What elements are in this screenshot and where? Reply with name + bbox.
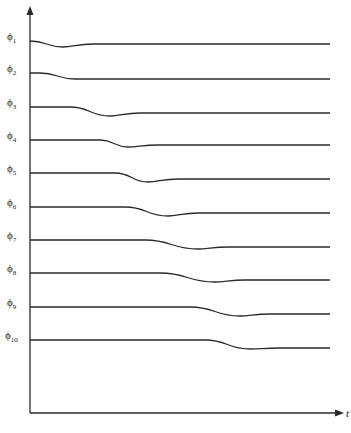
phi-subscript: 3 bbox=[13, 103, 17, 111]
curve-phi-3 bbox=[30, 107, 330, 116]
curve-phi-2 bbox=[30, 73, 330, 79]
curve-phi-10 bbox=[30, 340, 330, 349]
curve-phi-8 bbox=[30, 273, 330, 282]
phi-subscript: 2 bbox=[13, 69, 17, 77]
curve-label-phi-4: ϕ4 bbox=[7, 130, 16, 144]
curve-label-phi-2: ϕ2 bbox=[7, 63, 16, 77]
curve-label-phi-5: ϕ5 bbox=[7, 163, 16, 177]
curve-phi-1 bbox=[30, 41, 330, 47]
curve-label-phi-6: ϕ6 bbox=[7, 197, 16, 211]
curve-phi-4 bbox=[30, 140, 330, 147]
curve-label-phi-8: ϕ8 bbox=[7, 263, 16, 277]
curve-label-phi-10: ϕ10 bbox=[5, 330, 18, 344]
x-axis-arrow-icon bbox=[335, 410, 344, 417]
curve-label-phi-3: ϕ3 bbox=[7, 97, 16, 111]
curve-phi-7 bbox=[30, 240, 330, 249]
x-axis-label: t bbox=[346, 408, 349, 419]
curve-phi-9 bbox=[30, 307, 330, 316]
curve-phi-5 bbox=[30, 173, 330, 182]
phi-subscript: 6 bbox=[13, 203, 17, 211]
phi-subscript: 4 bbox=[13, 136, 17, 144]
y-axis bbox=[27, 6, 34, 413]
phi-subscript: 9 bbox=[13, 303, 17, 311]
x-axis bbox=[30, 410, 344, 417]
phi-subscript: 8 bbox=[13, 269, 17, 277]
phi-subscript: 5 bbox=[13, 169, 17, 177]
curve-label-phi-1: ϕ1 bbox=[7, 31, 16, 45]
phi-subscript: 1 bbox=[13, 37, 17, 45]
phi-subscript: 10 bbox=[11, 336, 18, 344]
curve-label-phi-9: ϕ9 bbox=[7, 297, 16, 311]
curve-label-phi-7: ϕ7 bbox=[7, 230, 16, 244]
y-axis-arrow-icon bbox=[27, 6, 34, 15]
phi-subscript: 7 bbox=[13, 236, 17, 244]
curve-group bbox=[30, 41, 330, 349]
curve-phi-6 bbox=[30, 207, 330, 216]
diagram-canvas bbox=[0, 0, 351, 433]
